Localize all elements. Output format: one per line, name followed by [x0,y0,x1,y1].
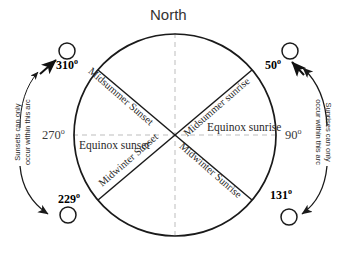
sunrise-arc-note-line2: occur within this arc [313,89,323,175]
west-degree-value: 270 [42,128,61,142]
bearing-50-arrow-icon [292,62,304,75]
bearing-label-50: 50o [265,58,281,71]
sun-upper-right-icon [282,43,298,59]
east-degree-value: 90 [285,128,298,142]
bearing-value-131: 131 [270,188,288,202]
bearing-label-310: 310o [56,58,78,71]
bearing-310-arrow-icon [40,60,56,74]
sunset-arc-note-line1: Sunsets can only [13,89,23,175]
sunset-arc-note: Sunsets can only occur within this arc [13,89,33,175]
east-degree-label: 90o [285,128,302,142]
degree-symbol-131: o [288,187,292,196]
degree-symbol-west: o [61,127,65,136]
degree-symbol-229: o [76,191,80,200]
bearing-label-229: 229o [58,192,80,205]
west-degree-label: 270o [42,128,65,142]
bearing-value-229: 229 [58,192,76,206]
sun-upper-left-icon [59,43,75,59]
north-label: North [150,7,187,22]
sunrise-arc-note: Sunrises can only occur within this arc [313,89,333,175]
sunrise-arc-note-line1: Sunrises can only [323,89,333,175]
horizon-compass-diagram: North 310o 50o 229o 131o 270o 90o Equino… [0,0,348,257]
sunset-arc-note-line2: occur within this arc [23,89,33,175]
sun-lower-right-icon [281,209,297,225]
degree-symbol-310: o [74,57,78,66]
sun-lower-left-icon [60,207,76,223]
degree-symbol-east: o [298,127,302,136]
degree-symbol-50: o [277,57,281,66]
bearing-label-131: 131o [270,188,292,201]
equinox-sunrise-label: Equinox sunrise [207,122,281,134]
bearing-value-50: 50 [265,58,277,72]
bearing-value-310: 310 [56,58,74,72]
